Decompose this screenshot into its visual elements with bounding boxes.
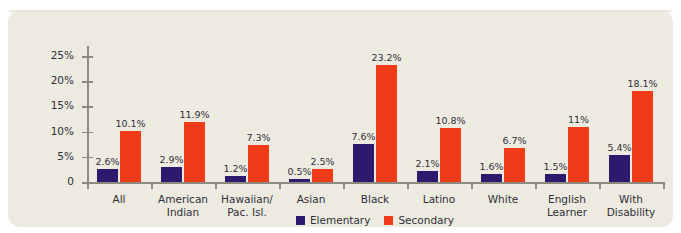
bar-value-label: 1.5% <box>543 161 567 172</box>
bar-elementary[interactable]: 2.6% <box>97 169 118 182</box>
cropped-title-strip <box>0 0 681 8</box>
chart-screenshot: Percent Suspended in One Year 05%10%15%2… <box>0 0 681 233</box>
x-tick <box>279 182 281 189</box>
bar-secondary[interactable]: 11.9% <box>184 122 205 182</box>
bar-elementary[interactable]: 1.6% <box>481 174 502 182</box>
bar-value-label: 2.1% <box>415 158 439 169</box>
x-tick <box>215 182 217 189</box>
x-tick <box>151 182 153 189</box>
legend-label: Elementary <box>310 214 370 226</box>
bar-value-label: 1.2% <box>223 163 247 174</box>
bar-elementary[interactable]: 7.6% <box>353 144 374 182</box>
bar-secondary[interactable]: 10.8% <box>440 128 461 182</box>
legend-swatch <box>384 216 393 225</box>
y-tick: 15% <box>82 106 93 108</box>
bar-value-label: 7.3% <box>246 132 270 143</box>
bar-value-label: 18.1% <box>627 78 657 89</box>
x-tick <box>471 182 473 189</box>
bar-secondary[interactable]: 23.2% <box>376 65 397 182</box>
plot-area: 05%10%15%20%25% 2.6%10.1%2.9%11.9%1.2%7.… <box>87 46 663 182</box>
y-tick-label: 15% <box>51 99 74 111</box>
bar-group: 2.6%10.1% <box>97 46 141 182</box>
bar-value-label: 2.9% <box>159 154 183 165</box>
bar-value-label: 5.4% <box>607 142 631 153</box>
bar-secondary[interactable]: 11% <box>568 127 589 182</box>
bar-value-label: 2.5% <box>310 156 334 167</box>
legend-swatch <box>296 216 305 225</box>
bar-secondary[interactable]: 2.5% <box>312 169 333 182</box>
y-tick-label: 0 <box>67 175 74 187</box>
bar-secondary[interactable]: 10.1% <box>120 131 141 182</box>
bar-elementary[interactable]: 1.2% <box>225 176 246 182</box>
bar-secondary[interactable]: 18.1% <box>632 91 653 182</box>
y-axis-line <box>87 46 89 182</box>
x-tick <box>87 182 89 189</box>
chart-legend: ElementarySecondary <box>87 214 663 226</box>
bar-value-label: 23.2% <box>371 52 401 63</box>
bar-value-label: 10.8% <box>435 115 465 126</box>
bar-group: 5.4%18.1% <box>609 46 653 182</box>
bar-value-label: 6.7% <box>502 135 526 146</box>
bar-value-label: 11.9% <box>179 109 209 120</box>
y-tick-label: 25% <box>51 49 74 61</box>
bar-secondary[interactable]: 7.3% <box>248 145 269 182</box>
bar-group: 1.5%11% <box>545 46 589 182</box>
x-axis-label-line: With <box>588 193 674 206</box>
bar-elementary[interactable]: 5.4% <box>609 155 630 182</box>
bar-elementary[interactable]: 0.5% <box>289 179 310 182</box>
y-tick: 20% <box>82 81 93 83</box>
x-tick <box>535 182 537 189</box>
bar-group: 2.9%11.9% <box>161 46 205 182</box>
bar-group: 1.2%7.3% <box>225 46 269 182</box>
bar-elementary[interactable]: 2.9% <box>161 167 182 182</box>
y-tick-label: 20% <box>51 74 74 86</box>
bar-group: 7.6%23.2% <box>353 46 397 182</box>
bar-value-label: 0.5% <box>287 166 311 177</box>
chart-card: Percent Suspended in One Year 05%10%15%2… <box>8 10 673 227</box>
bar-secondary[interactable]: 6.7% <box>504 148 525 182</box>
bar-value-label: 7.6% <box>351 131 375 142</box>
x-tick <box>663 182 665 189</box>
y-tick: 5% <box>82 157 93 159</box>
bar-group: 2.1%10.8% <box>417 46 461 182</box>
y-tick: 10% <box>82 132 93 134</box>
x-tick <box>407 182 409 189</box>
y-tick-label: 10% <box>51 125 74 137</box>
x-tick <box>599 182 601 189</box>
bar-group: 0.5%2.5% <box>289 46 333 182</box>
bar-group: 1.6%6.7% <box>481 46 525 182</box>
bar-value-label: 10.1% <box>115 118 145 129</box>
legend-label: Secondary <box>398 214 454 226</box>
bar-value-label: 2.6% <box>95 156 119 167</box>
bar-value-label: 11% <box>568 114 589 125</box>
bar-elementary[interactable]: 1.5% <box>545 174 566 182</box>
y-tick-label: 5% <box>57 150 74 162</box>
bar-value-label: 1.6% <box>479 161 503 172</box>
legend-item[interactable]: Secondary <box>384 214 454 226</box>
bar-elementary[interactable]: 2.1% <box>417 171 438 182</box>
x-axis-line <box>87 182 663 184</box>
x-tick <box>343 182 345 189</box>
legend-item[interactable]: Elementary <box>296 214 370 226</box>
y-tick: 25% <box>82 56 93 58</box>
